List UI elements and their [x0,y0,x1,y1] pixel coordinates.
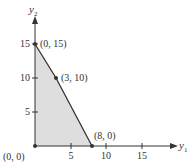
y-tick-label-15: 15 [20,38,30,49]
y-tick-label-10: 10 [20,72,30,83]
vertex-label-8-0: (8, 0) [94,130,116,142]
vertex-label-origin: (0, 0) [3,151,25,162]
vertex-origin [33,144,37,148]
x-axis-arrow-icon [170,143,178,149]
x-axis-label: y1 [178,139,188,154]
y-axis-label: y2 [28,3,38,18]
vertex-label-3-10: (3, 10) [61,72,88,84]
x-tick-label-10: 10 [101,150,111,161]
vertex-label-0-15: (0, 15) [40,38,67,50]
vertex-0-15 [33,42,37,46]
vertex-3-10 [54,76,58,80]
vertex-8-0 [90,144,94,148]
feasible-region-chart: 5 10 15 5 10 15 y1 y2 (0, 0) (0, 15) (3,… [0,0,189,162]
y-tick-label-5: 5 [25,106,30,117]
x-tick-label-5: 5 [69,150,74,161]
x-tick-label-15: 15 [137,150,147,161]
